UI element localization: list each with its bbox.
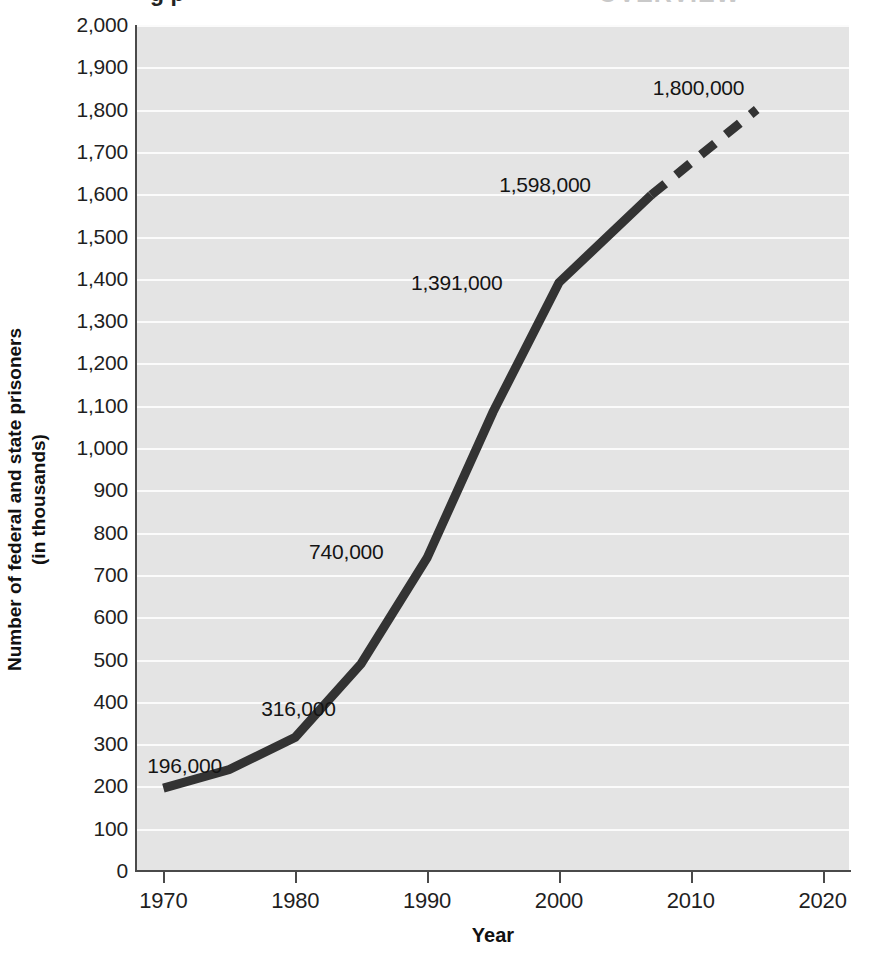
data-series-layer bbox=[0, 0, 874, 959]
data-point-label: 1,598,000 bbox=[499, 173, 591, 197]
data-point-label: 196,000 bbox=[147, 754, 222, 778]
data-point-label: 740,000 bbox=[309, 540, 384, 564]
data-point-label: 1,800,000 bbox=[653, 76, 745, 100]
projected-series-line bbox=[651, 110, 756, 195]
data-point-label: 1,391,000 bbox=[411, 271, 503, 295]
line-chart: 01002003004005006007008009001,0001,1001,… bbox=[0, 0, 874, 959]
x-axis-title: Year bbox=[137, 924, 849, 947]
data-point-label: 316,000 bbox=[261, 697, 336, 721]
actual-series-line bbox=[163, 195, 651, 788]
